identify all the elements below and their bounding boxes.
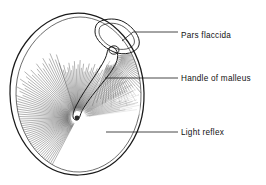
- radial-fiber: [121, 56, 158, 57]
- radial-fiber: [32, 75, 73, 114]
- radial-fiber: [118, 50, 162, 56]
- radial-fiber: [37, 122, 73, 162]
- label-pars-flaccida: Pars flaccida: [181, 31, 231, 40]
- radial-fiber: [17, 87, 69, 114]
- radial-fiber: [119, 61, 153, 79]
- label-handle-of-malleus: Handle of malleus: [181, 74, 251, 83]
- label-light-reflex: Light reflex: [181, 128, 224, 137]
- pars-flaccida-inner-fold: [99, 23, 134, 49]
- radial-fiber: [31, 122, 73, 158]
- malleus-group: [73, 19, 141, 148]
- light-reflex-cone-region: [77, 86, 141, 148]
- umbo-point: [75, 116, 80, 121]
- label-group: Pars flaccidaHandle of malleusLight refl…: [181, 31, 251, 137]
- anatomy-figure: Pars flaccidaHandle of malleusLight refl…: [0, 0, 266, 185]
- tympanic-membrane-illustration: Pars flaccidaHandle of malleusLight refl…: [0, 0, 266, 185]
- radial-fiber: [38, 124, 72, 168]
- leader-line-pars-flaccida: [122, 32, 178, 41]
